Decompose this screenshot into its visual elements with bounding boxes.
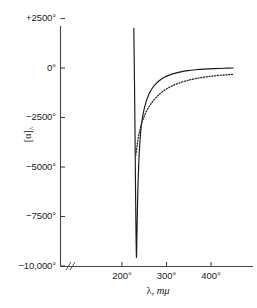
y-axis-ticks	[61, 19, 66, 267]
solid-curve	[134, 28, 233, 257]
x-tick-label: 400°	[186, 270, 236, 281]
x-axis-title-unit: mμ	[157, 285, 170, 296]
y-tick-label: +2500°	[0, 12, 56, 23]
y-tick-label: 0°	[0, 62, 56, 73]
x-axis-title: λ, mμ	[98, 285, 218, 296]
ord-chart-figure: +2500°0°−2500°−5000°−7500°−10,000° 200°3…	[0, 0, 257, 308]
y-axis-title-subscript: λ	[27, 127, 35, 130]
y-tick-label: −5000°	[0, 161, 56, 172]
y-axis-title-base: [α]	[22, 130, 33, 142]
y-tick-label: −7500°	[0, 210, 56, 221]
x-tick-label: 300°	[142, 270, 192, 281]
x-tick-label: 200°	[97, 270, 147, 281]
y-axis-title: [α]λ	[22, 115, 35, 155]
dotted-curve	[136, 74, 233, 155]
y-tick-label: −10,000°	[0, 260, 56, 271]
x-axis-ticks	[122, 262, 211, 267]
